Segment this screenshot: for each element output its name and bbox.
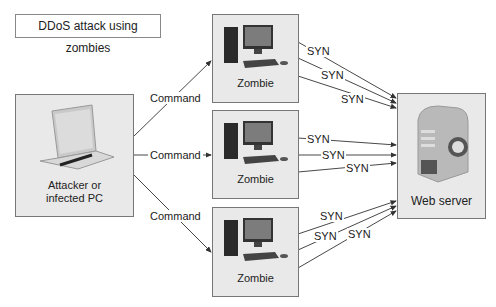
web-server-label: Web server: [398, 194, 485, 208]
command-label: Command: [148, 210, 203, 222]
syn-label: SYN: [340, 93, 365, 105]
diagram-title: DDoS attack using zombies: [15, 14, 161, 38]
syn-label: SYN: [321, 149, 346, 161]
laptop-icon: [30, 103, 120, 173]
zombie-box-3: Zombie: [212, 207, 299, 297]
desktop-computer-icon: [221, 119, 291, 169]
server-globe-icon: [408, 102, 478, 187]
desktop-computer-icon: [221, 23, 291, 73]
syn-label: SYN: [345, 162, 370, 174]
syn-label: SYN: [306, 45, 331, 57]
syn-label: SYN: [306, 133, 331, 145]
zombie-box-2: Zombie: [212, 110, 299, 199]
zombie-label: Zombie: [213, 173, 298, 185]
attacker-label-line2: infected PC: [16, 192, 133, 205]
syn-label: SYN: [347, 228, 372, 240]
desktop-computer-icon: [221, 216, 291, 266]
zombie-label: Zombie: [213, 77, 298, 89]
attacker-label-line1: Attacker or: [16, 179, 133, 192]
syn-label: SYN: [319, 210, 344, 222]
syn-label: SYN: [320, 69, 345, 81]
zombie-box-1: Zombie: [212, 14, 299, 103]
attacker-box: Attacker or infected PC: [15, 94, 134, 217]
syn-label: SYN: [313, 230, 338, 242]
web-server-box: Web server: [397, 93, 486, 219]
command-label: Command: [148, 92, 203, 104]
zombie-label: Zombie: [213, 272, 298, 284]
command-label: Command: [148, 149, 203, 161]
